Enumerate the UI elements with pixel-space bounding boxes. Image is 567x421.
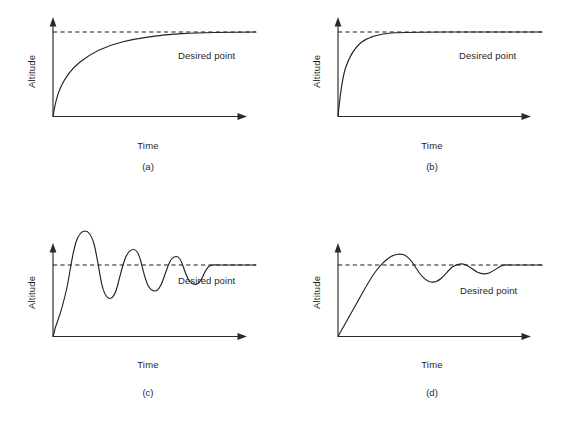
panel-b-plot	[284, 0, 567, 210]
panel-c-ylabel: Altitude	[26, 276, 37, 309]
panel-d-desired-point-label: Desired point	[460, 285, 517, 296]
y-axis-arrowhead	[335, 243, 342, 253]
panel-c-caption: (c)	[98, 387, 198, 398]
panel-a-ylabel: Altitude	[26, 55, 37, 88]
panel-d-xlabel: Time	[382, 359, 482, 370]
panel-b-desired-point-label: Desired point	[459, 50, 516, 61]
x-axis-arrowhead	[238, 113, 248, 120]
x-axis-arrowhead	[522, 333, 532, 340]
y-axis-arrowhead	[50, 243, 57, 253]
step-response-figure: Altitude Time (a) Desired point Altitude…	[0, 0, 567, 421]
panel-c: Altitude Time (c) Desired point	[0, 211, 283, 421]
y-axis-arrowhead	[335, 17, 342, 27]
panel-b-caption: (b)	[382, 161, 482, 172]
x-axis-arrowhead	[238, 333, 248, 340]
response-curve	[53, 32, 256, 117]
y-axis-arrowhead	[50, 17, 57, 27]
panel-d-caption: (d)	[382, 387, 482, 398]
panel-a-caption: (a)	[98, 161, 198, 172]
panel-a-plot	[0, 0, 283, 210]
panel-b-xlabel: Time	[382, 140, 482, 151]
panel-a: Altitude Time (a) Desired point	[0, 0, 283, 210]
panel-a-desired-point-label: Desired point	[178, 50, 235, 61]
response-curve	[338, 32, 542, 117]
panel-d-ylabel: Altitude	[311, 276, 322, 309]
panel-b: Altitude Time (b) Desired point	[284, 0, 567, 210]
panel-c-xlabel: Time	[98, 359, 198, 370]
panel-c-desired-point-label: Desired point	[178, 275, 235, 286]
x-axis-arrowhead	[522, 113, 532, 120]
panel-a-xlabel: Time	[98, 140, 198, 151]
panel-d: Altitude Time (d) Desired point	[284, 211, 567, 421]
panel-b-ylabel: Altitude	[311, 55, 322, 88]
